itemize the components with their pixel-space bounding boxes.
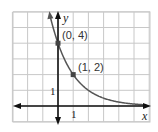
- data-point-marker: [56, 41, 61, 46]
- point-label-1-2: (1, 2): [78, 61, 104, 73]
- y-axis: [55, 11, 61, 125]
- exponential-decay-chart: y x 1 1 (0, 4) (1, 2): [0, 0, 158, 132]
- x-tick-label: 1: [71, 108, 77, 120]
- x-axis-label: x: [141, 109, 148, 123]
- y-tick-label: 1: [50, 85, 56, 97]
- arrow-left-icon: [13, 103, 21, 109]
- data-point-marker: [71, 72, 76, 77]
- arrow-down-icon: [55, 117, 61, 125]
- point-label-0-4: (0, 4): [62, 29, 88, 41]
- y-axis-label: y: [62, 11, 69, 25]
- curve: [47, 11, 146, 105]
